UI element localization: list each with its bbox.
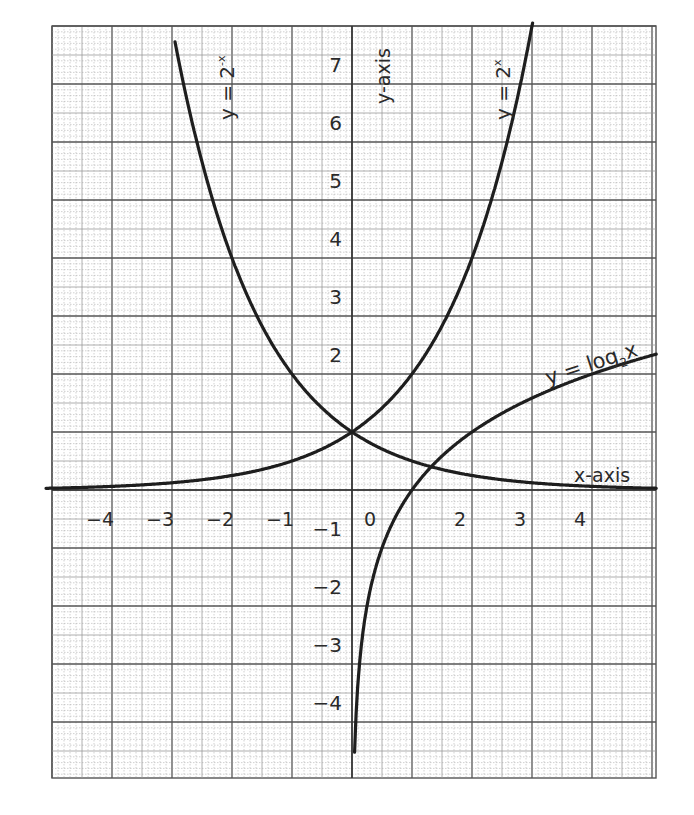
x-tick-label: 3: [514, 508, 526, 530]
x-tick-label: −4: [86, 508, 114, 530]
grid: [52, 26, 656, 778]
x-tick-label: −1: [266, 508, 294, 530]
x-axis-title: x-axis: [574, 464, 630, 486]
y-tick-label: 3: [329, 285, 342, 309]
x-tick-label: 4: [574, 508, 586, 530]
y-tick-label: −3: [313, 633, 342, 657]
y-tick-label: 7: [329, 53, 342, 77]
y-tick-label: −1: [313, 517, 342, 541]
label-exp: y = 2x: [491, 59, 515, 120]
y-tick-label: 2: [329, 343, 342, 367]
graph-paper-chart: −4−3−2−10234765432−1−2−3−4 y-axis x-axis…: [0, 0, 694, 815]
x-tick-label: −3: [146, 508, 174, 530]
x-tick-label: 0: [364, 508, 376, 530]
y-tick-label: 5: [329, 169, 342, 193]
y-tick-label: −4: [313, 691, 342, 715]
y-tick-label: −2: [313, 575, 342, 599]
y-tick-label: 6: [329, 111, 342, 135]
y-tick-label: 4: [329, 227, 342, 251]
y-axis-title: y-axis: [372, 48, 394, 104]
x-tick-label: −2: [206, 508, 234, 530]
x-tick-label: 2: [454, 508, 466, 530]
